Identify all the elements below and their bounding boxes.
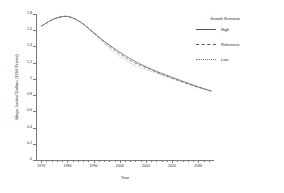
x-tick-mark <box>41 160 42 163</box>
x-tick-mark <box>83 160 84 162</box>
legend-swatch-low-icon <box>196 59 216 60</box>
x-axis-title: Year <box>36 175 214 180</box>
x-tick-mark <box>57 160 58 162</box>
legend-label: Low <box>221 57 228 62</box>
x-tick-mark <box>67 160 68 163</box>
y-tick-label: 0 <box>30 158 32 162</box>
y-tick-label: 1.2 <box>27 61 32 65</box>
y-tick-label: 1 <box>30 77 32 81</box>
x-tick-mark <box>204 160 205 162</box>
legend-label: Reference <box>221 42 239 47</box>
legend-title: Growth Scenario <box>210 16 280 21</box>
x-tick-mark <box>130 160 131 162</box>
legend-swatch-reference-icon <box>196 44 216 45</box>
x-tick-label: 2020 <box>168 165 176 169</box>
series-line-high <box>41 16 211 91</box>
x-tick-mark <box>167 160 168 162</box>
x-tick-mark <box>62 160 63 162</box>
x-tick-mark <box>183 160 184 162</box>
y-tick-label: 1.6 <box>27 28 32 32</box>
x-tick-label: 1990 <box>90 165 98 169</box>
legend-item-high[interactable]: High <box>196 26 280 32</box>
x-tick-mark <box>46 160 47 162</box>
x-tick-label: 2000 <box>116 165 124 169</box>
legend-label: High <box>221 27 229 32</box>
y-tick-label: 0.2 <box>27 142 32 146</box>
x-tick-label: 2010 <box>142 165 150 169</box>
y-tick-label: 1.4 <box>27 45 32 49</box>
y-tick-label: 0.4 <box>27 126 32 130</box>
x-tick-mark <box>162 160 163 162</box>
x-tick-mark <box>78 160 79 162</box>
x-tick-mark <box>52 160 53 162</box>
x-tick-mark <box>115 160 116 162</box>
x-tick-mark <box>141 160 142 162</box>
series-line-low <box>41 16 211 91</box>
x-tick-mark <box>135 160 136 162</box>
legend-items: HighReferenceLow <box>196 26 280 62</box>
y-tick-label: 1.8 <box>27 12 32 16</box>
series-group <box>36 14 214 160</box>
x-tick-mark <box>151 160 152 162</box>
plot-area: 00.20.40.60.811.21.41.61.8 1970198019902… <box>36 14 214 160</box>
legend-swatch-high-icon <box>196 29 216 30</box>
legend: Growth Scenario HighReferenceLow <box>196 16 280 71</box>
x-tick-mark <box>73 160 74 162</box>
x-tick-mark <box>120 160 121 163</box>
energy-intensity-chart: 00.20.40.60.811.21.41.61.8 1970198019902… <box>0 0 284 193</box>
legend-item-reference[interactable]: Reference <box>196 41 280 47</box>
x-tick-mark <box>172 160 173 163</box>
y-axis-title: Mega Joules/ Dollars (1994 Prices) <box>14 14 24 160</box>
x-tick-mark <box>94 160 95 163</box>
x-tick-mark <box>109 160 110 162</box>
x-tick-label: 2030 <box>194 165 202 169</box>
y-tick-label: 0.8 <box>27 93 32 97</box>
x-tick-mark <box>209 160 210 162</box>
x-tick-label: 1970 <box>37 165 45 169</box>
x-tick-mark <box>104 160 105 162</box>
y-tick-label: 0.6 <box>27 110 32 114</box>
x-tick-label: 1980 <box>63 165 71 169</box>
x-tick-mark <box>177 160 178 162</box>
x-tick-mark <box>88 160 89 162</box>
x-tick-mark <box>156 160 157 162</box>
series-line-reference <box>41 16 211 91</box>
x-tick-mark <box>146 160 147 163</box>
x-tick-mark <box>193 160 194 162</box>
legend-item-low[interactable]: Low <box>196 56 280 62</box>
x-tick-mark <box>198 160 199 163</box>
x-tick-mark <box>99 160 100 162</box>
x-tick-mark <box>188 160 189 162</box>
x-tick-mark <box>125 160 126 162</box>
y-tick-mark <box>33 160 36 161</box>
